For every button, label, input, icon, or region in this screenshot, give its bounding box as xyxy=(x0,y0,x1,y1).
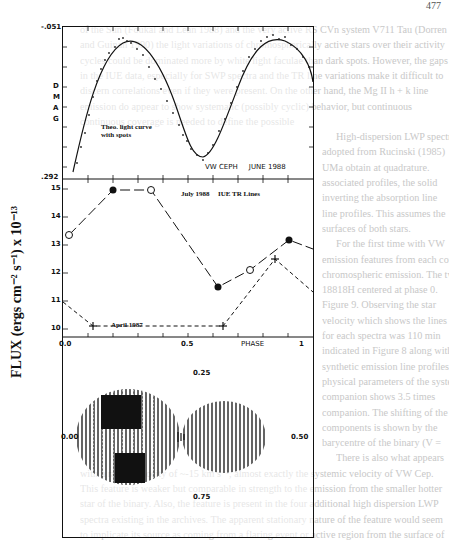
binary-star-model xyxy=(78,387,264,487)
flux-tick-13: 13 xyxy=(51,240,61,248)
curve-label-line1: Theo. light curve xyxy=(101,123,152,131)
figure: FLUX (ergs cm⁻² s⁻¹) x 10⁻¹³ xyxy=(62,26,314,538)
curve-label-line2: with spots xyxy=(101,131,131,139)
body-text-line: surfaces of both stars. xyxy=(322,221,449,237)
phase-tick-1: 1 xyxy=(299,340,304,348)
light-curve xyxy=(73,40,313,172)
phase-axis-label: PHASE xyxy=(241,340,264,348)
body-text-line: chromospheric emission. The two highest xyxy=(322,267,449,283)
july-1988-label: July 1988 xyxy=(181,190,210,198)
phase-label-050: 0.50 xyxy=(291,433,308,441)
star-spot-2 xyxy=(115,453,145,483)
body-text-line: line profiles. This assumes the xyxy=(322,206,449,222)
body-text-line: associated profiles, the solid xyxy=(322,175,449,191)
flux-tick-12: 12 xyxy=(51,268,61,276)
body-text-line: inverting the absorption line xyxy=(322,190,449,206)
dmag-label-g: G xyxy=(53,115,59,123)
dmag-top-label: -.051 xyxy=(41,23,61,31)
body-text-line: There is also what appears xyxy=(336,450,449,466)
body-text-line: adopted from Rucinski (1985) xyxy=(322,144,449,160)
phase-tick-05: 0.5 xyxy=(181,340,193,348)
body-text-line: UMa obtain at quadrature. xyxy=(322,160,449,176)
flux-tick-14: 14 xyxy=(51,212,61,220)
top-axis-ticks xyxy=(63,27,313,179)
plot-annotation: VW CEPH JUNE 1988 xyxy=(205,163,286,171)
phase-label-000: 0.00 xyxy=(61,433,78,441)
figure-plots xyxy=(63,27,313,537)
body-text-line: emission features from each component xyxy=(322,252,449,268)
april-1987-label: April 1987 xyxy=(111,321,143,329)
body-text-line: For the first time with VW xyxy=(336,236,449,252)
phase-tick-0: 0.0 xyxy=(59,340,71,348)
body-text-line: indicated in Figure 8 along with xyxy=(322,343,449,359)
body-text-line: Figure 9. Observing the star xyxy=(322,297,449,313)
body-text-line: velocity which shows the lines xyxy=(322,313,449,329)
dmag-label-m: M xyxy=(53,93,60,101)
body-text-line: High-dispersion LWP spectra xyxy=(336,129,449,145)
body-text-line: companion. The shifting of the xyxy=(322,405,449,421)
body-text-line: 18818H centered at phase 0. xyxy=(322,282,449,298)
body-text-line: synthetic emission line profiles xyxy=(322,359,449,375)
phase-label-025: 0.25 xyxy=(193,369,210,377)
flux-tick-10: 10 xyxy=(51,324,61,332)
star-spot-1 xyxy=(101,395,141,429)
flux-axis-ticks xyxy=(63,179,288,337)
body-text-line: components is shown by the xyxy=(322,420,449,436)
phase-label-075: 0.75 xyxy=(193,493,210,501)
iue-tr-lines-title: IUE TR Lines xyxy=(218,190,260,198)
flux-axis-label-text: FLUX (ergs cm⁻² s⁻¹) x 10⁻¹³ xyxy=(8,206,25,378)
body-text-line: physical parameters of the system xyxy=(322,374,449,390)
body-text-line: for each spectra was 110 min xyxy=(322,328,449,344)
body-text-line: companion shows 3.5 times xyxy=(322,389,449,405)
flux-axis-label: FLUX (ergs cm⁻² s⁻¹) x 10⁻¹³ xyxy=(5,197,27,387)
body-text-line: barycentre of the binary (V = xyxy=(322,435,449,451)
july-1988-series xyxy=(69,190,313,287)
dmag-label-d: D xyxy=(53,82,59,90)
april-1987-series xyxy=(63,259,313,326)
dmag-label-a: A xyxy=(53,104,58,112)
flux-tick-15: 15 xyxy=(51,184,61,192)
dmag-bottom-label: .292 xyxy=(41,173,58,181)
flux-tick-11: 11 xyxy=(51,296,61,304)
